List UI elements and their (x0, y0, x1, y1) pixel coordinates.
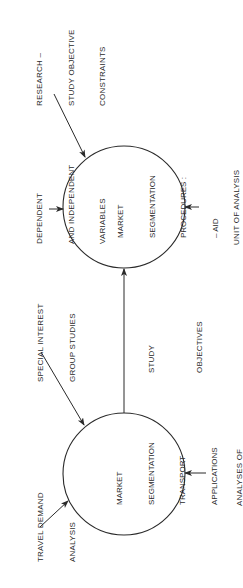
label-line: RESEARCH – (35, 29, 46, 106)
procedures-text: MARKET SEGMENTATION PROCEDURES : – AID –… (95, 172, 243, 238)
label-line: TRAVEL DEMAND (36, 492, 47, 562)
label-line: STUDY OBJECTIVE (67, 29, 78, 106)
node-line: – AID (211, 172, 222, 238)
node-line: TRANSPORT (178, 442, 189, 505)
label-line: AND INDEPENDENT (67, 165, 78, 244)
label-line: ANALYSES OF (235, 422, 243, 506)
label-line: SPECIAL INTEREST (36, 304, 47, 382)
research-constraints-label: RESEARCH – STUDY OBJECTIVE CONSTRAINTS (14, 29, 130, 106)
node-line: MARKET (116, 172, 127, 238)
geographic-units-label: ANALYSES OF GEOGRAPHIC UNITS (214, 422, 243, 506)
node-line: – Q factor analysis (242, 172, 243, 238)
node-line: SEGMENTATION (147, 442, 158, 505)
node-line: PROCEDURES : (179, 172, 190, 238)
node-line: MARKET (115, 442, 126, 505)
label-line: CONSTRAINTS (98, 29, 109, 106)
label-line: STUDY (144, 321, 160, 373)
label-line: OBJECTIVES (192, 321, 208, 373)
label-line: DEPENDENT (35, 165, 46, 244)
label-line: GROUP STUDIES (68, 304, 79, 382)
travel-demand-label: TRAVEL DEMAND ANALYSIS (15, 492, 99, 562)
node-line: SEGMENTATION (148, 172, 159, 238)
market-segmentation-diagram: RESEARCH – STUDY OBJECTIVE CONSTRAINTS D… (0, 0, 243, 588)
special-interest-label: SPECIAL INTEREST GROUP STUDIES (15, 304, 99, 382)
study-objectives-label: STUDY OBJECTIVES (112, 321, 240, 373)
label-line: ANALYSIS (68, 492, 79, 562)
